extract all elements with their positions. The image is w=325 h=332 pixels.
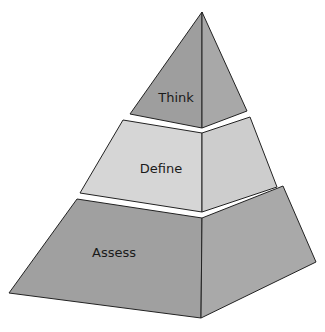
tier-think [130,12,247,128]
tier-think-side-face [202,12,247,128]
tier-assess-label: Assess [92,245,136,260]
tier-define-label: Define [140,161,182,176]
tier-think-front-face [130,12,202,128]
pyramid-diagram: Think Define Assess [0,0,325,332]
tier-think-label: Think [158,90,194,105]
